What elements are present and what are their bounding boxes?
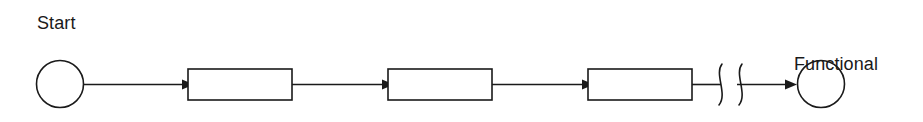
end-node-label: Functional solution — [794, 9, 878, 122]
step-3-box[interactable] — [588, 69, 692, 100]
step-2-box[interactable] — [388, 69, 492, 100]
end-node-label-line2: solution — [794, 119, 878, 122]
step-1-box[interactable] — [188, 69, 292, 100]
end-node-label-line1: Functional — [794, 53, 878, 75]
start-node-circle[interactable] — [37, 61, 84, 108]
start-node-label: Start — [37, 12, 76, 34]
process-flow-diagram: Start Functional solution — [0, 0, 923, 122]
flow-diagram-canvas — [0, 0, 923, 122]
